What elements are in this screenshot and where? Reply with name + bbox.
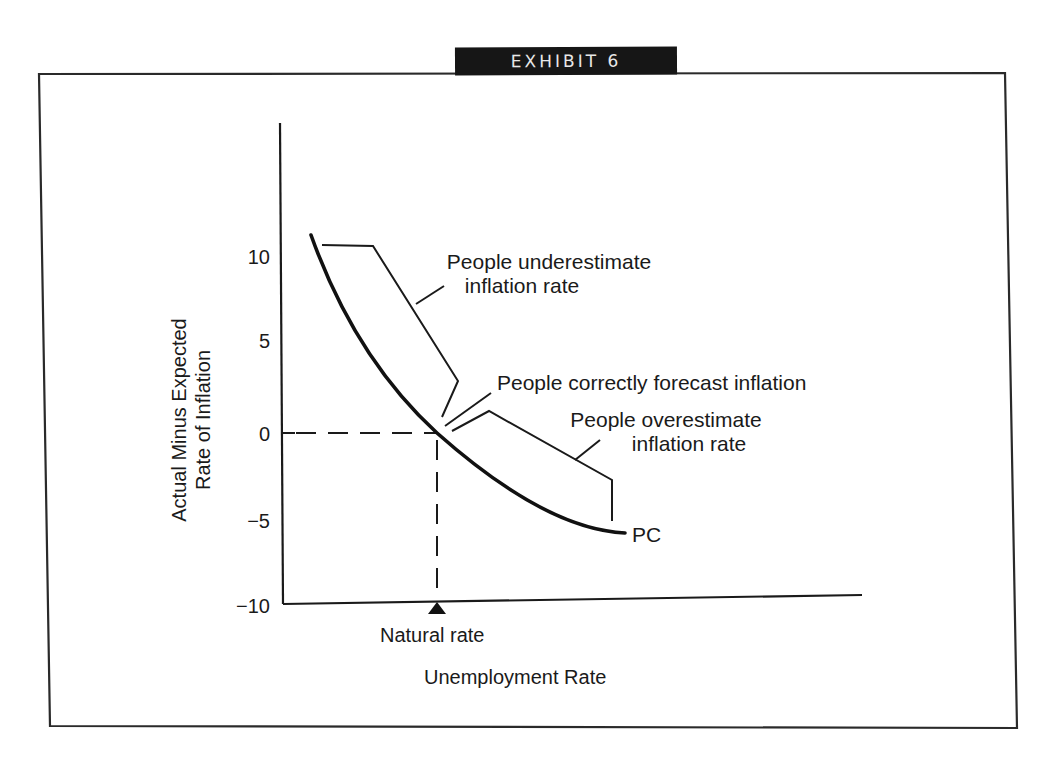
annotation-underestimate-line1: People underestimate: [447, 250, 651, 273]
x-axis-label: Unemployment Rate: [424, 666, 606, 688]
annotation-overestimate-line1: People overestimate: [570, 408, 761, 431]
correct-forecast-leader: [445, 393, 491, 426]
exhibit-title-tab: EXHIBIT 6: [455, 46, 677, 75]
exhibit-figure: EXHIBIT 6 10 5 0 −5 −10 Actual Minus Exp…: [0, 0, 1052, 757]
overestimate-leader: [575, 440, 600, 460]
y-tick-0: 0: [259, 423, 270, 445]
natural-rate-label: Natural rate: [380, 624, 485, 646]
y-tick-5: 5: [259, 330, 270, 352]
annotation-overestimate-line2: inflation rate: [632, 432, 746, 455]
annotation-underestimate-line2: inflation rate: [465, 274, 579, 297]
curve-label-pc: PC: [632, 523, 661, 546]
phillips-curve-chart: 10 5 0 −5 −10 Actual Minus Expected Rate…: [0, 0, 1052, 757]
y-axis-label: Actual Minus Expected Rate of Inflation: [168, 318, 214, 521]
annotation-correct-forecast: People correctly forecast inflation: [497, 371, 806, 394]
y-tick-10: 10: [248, 246, 270, 268]
svg-text:Rate of Inflation: Rate of Inflation: [192, 350, 214, 490]
underestimate-bracket: [322, 245, 458, 417]
x-axis: [283, 595, 862, 604]
y-tick-minus-5: −5: [247, 510, 270, 532]
natural-rate-marker-icon: [428, 602, 446, 614]
svg-text:Actual Minus Expected: Actual Minus Expected: [168, 318, 190, 521]
y-axis: [280, 123, 283, 604]
y-tick-minus-10: −10: [236, 595, 270, 617]
underestimate-leader: [416, 286, 444, 304]
